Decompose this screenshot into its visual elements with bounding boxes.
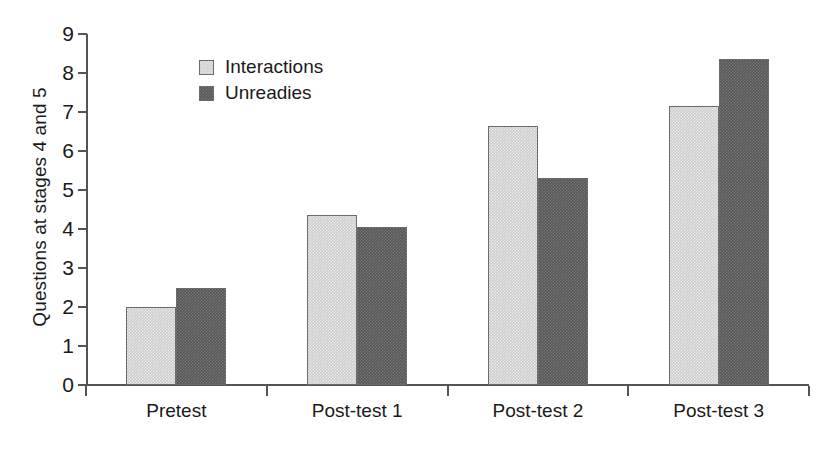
x-axis-category-label: Pretest [86,400,267,422]
bar-interactions-0 [126,307,176,385]
y-axis-tick-label: 2 [48,296,74,317]
x-axis-tick [808,386,810,396]
legend-label-interactions: Interactions [225,56,323,78]
y-axis-tick-label: 7 [48,101,74,122]
y-axis-tick [78,306,87,308]
y-axis-tick [78,72,87,74]
y-axis-tick-label: 9 [48,23,74,44]
x-axis-category-label: Post-test 2 [448,400,629,422]
y-axis-tick-label: 0 [48,374,74,395]
bar-interactions-1 [307,215,357,385]
bar-unreadies-0 [176,288,226,386]
legend-swatch-interactions [199,60,214,75]
y-axis-tick-label: 4 [48,218,74,239]
bar-unreadies-1 [357,227,407,385]
x-axis-tick [266,386,268,396]
x-axis-tick [85,386,87,396]
legend-item-interactions: Interactions [199,54,323,80]
bar-interactions-3 [669,106,719,385]
legend-item-unreadies: Unreadies [199,80,323,106]
y-axis-tick [78,33,87,35]
bar-chart: Questions at stages 4 and 5 0123456789 P… [0,0,837,453]
x-axis-tick [447,386,449,396]
legend: Interactions Unreadies [199,54,323,106]
legend-label-unreadies: Unreadies [225,82,312,104]
bar-unreadies-3 [719,59,769,385]
y-axis-tick-label: 5 [48,179,74,200]
y-axis-tick [78,267,87,269]
y-axis-tick [78,111,87,113]
x-axis-tick [627,386,629,396]
y-axis-tick [78,228,87,230]
y-axis-tick [78,150,87,152]
y-axis-tick-label: 1 [48,335,74,356]
y-axis-tick-label: 8 [48,62,74,83]
legend-swatch-unreadies [199,86,214,101]
y-axis-tick-label: 6 [48,140,74,161]
y-axis-tick [78,189,87,191]
y-axis-tick [78,345,87,347]
bar-interactions-2 [488,126,538,385]
x-axis-category-label: Post-test 3 [628,400,809,422]
y-axis-line [86,34,88,386]
x-axis-category-label: Post-test 1 [267,400,448,422]
y-axis-tick-label: 3 [48,257,74,278]
bar-unreadies-2 [538,178,588,385]
